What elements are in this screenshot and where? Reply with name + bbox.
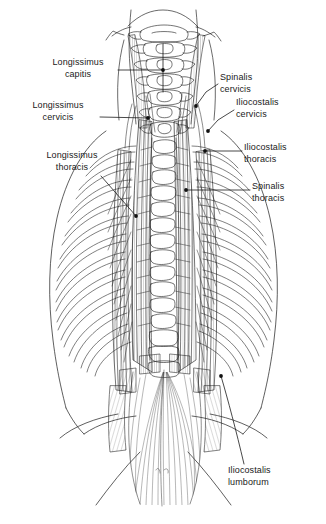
cervical-muscle-slips xyxy=(118,35,216,150)
label-spinalis-thoracis: Spinalisthoracis xyxy=(252,181,308,204)
label-line2: lumborum xyxy=(228,477,269,487)
anatomical-figure: LongissimuscapitisLongissimuscervicisLon… xyxy=(0,0,326,524)
neck-outline xyxy=(106,10,221,124)
label-longissimus-capitis: Longissimuscapitis xyxy=(38,57,118,80)
label-iliocostalis-thoracis: Iliocostalisthoracis xyxy=(244,142,310,165)
label-iliocostalis-cervicis: Iliocostaliscervicis xyxy=(236,97,298,120)
label-line1: Iliocostalis xyxy=(228,465,271,475)
label-longissimus-thoracis: Longissimusthoracis xyxy=(30,150,114,173)
label-line1: Longissimus xyxy=(52,57,103,67)
label-longissimus-cervicis: Longissimuscervicis xyxy=(18,100,98,123)
leader-dot-iliocostalis-cervicis xyxy=(206,129,210,133)
label-line1: Longissimus xyxy=(32,100,83,110)
label-line2: thoracis xyxy=(252,193,284,203)
label-line2: thoracis xyxy=(244,154,276,164)
leader-spinalis-cervicis xyxy=(196,84,218,106)
label-line2: thoracis xyxy=(56,162,88,172)
leader-dot-iliocostalis-lumborum xyxy=(219,374,223,378)
label-line2: cervicis xyxy=(220,84,251,94)
leader-dot-longissimus-thoracis xyxy=(134,214,138,218)
leader-iliocostalis-cervicis xyxy=(208,110,234,131)
label-line1: Iliocostalis xyxy=(236,97,279,107)
label-line2: cervicis xyxy=(43,112,74,122)
label-spinalis-cervicis: Spinaliscervicis xyxy=(220,72,272,95)
label-line1: Spinalis xyxy=(220,72,252,82)
label-line2: cervicis xyxy=(236,109,267,119)
label-iliocostalis-lumborum: Iliocostalislumborum xyxy=(228,465,298,488)
leader-dot-longissimus-cervicis xyxy=(146,116,150,120)
leader-dot-spinalis-cervicis xyxy=(194,104,198,108)
label-line1: Iliocostalis xyxy=(244,142,287,152)
leader-dot-iliocostalis-thoracis xyxy=(203,149,207,153)
label-line2: capitis xyxy=(65,69,91,79)
leader-dot-longissimus-capitis xyxy=(161,68,165,72)
label-line1: Spinalis xyxy=(252,181,284,191)
leader-dot-spinalis-thoracis xyxy=(184,188,188,192)
iliocostalis-bands xyxy=(112,150,216,392)
muscle-columns xyxy=(132,120,196,372)
label-line1: Longissimus xyxy=(46,150,97,160)
